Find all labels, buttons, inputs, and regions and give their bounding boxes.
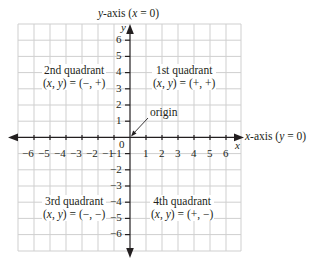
- y-variable-label: y: [121, 22, 126, 33]
- y-axis-up-arrow-icon: [126, 24, 134, 34]
- y-tick-label: 6: [116, 34, 122, 45]
- x-tick-label: 1: [143, 148, 149, 159]
- y-tick-label: −4: [110, 196, 122, 207]
- quadrant-3-label: 3rd quadrant (x, y) = (−, −): [42, 195, 106, 221]
- y-tick-label: −1: [110, 148, 122, 159]
- x-tick-label: −4: [54, 148, 66, 159]
- x-tick-label: −6: [22, 148, 34, 159]
- x-tick-label: −3: [70, 148, 82, 159]
- x-tick-label: 5: [207, 148, 213, 159]
- axes: [8, 24, 244, 258]
- y-axis-down-arrow-icon: [126, 248, 134, 258]
- quadrant-2-label: 2nd quadrant (x, y) = (−, +): [42, 64, 106, 90]
- x-axis-title: x-axis (y = 0): [245, 131, 306, 143]
- x-tick-label: −5: [38, 148, 50, 159]
- y-tick-label: −5: [110, 212, 122, 223]
- origin-label: origin: [150, 107, 177, 119]
- x-tick-label: 3: [175, 148, 181, 159]
- x-tick-label: 2: [159, 148, 165, 159]
- y-tick-label: 2: [116, 99, 122, 110]
- quadrant-4-label: 4th quadrant (x, y) = (+, −): [150, 195, 214, 221]
- x-tick-label: 6: [223, 148, 229, 159]
- x-variable-label: x: [235, 140, 240, 151]
- y-tick-label: 1: [116, 115, 122, 126]
- y-tick-label: −6: [110, 228, 122, 239]
- x-axis-left-arrow-icon: [8, 134, 18, 142]
- y-axis-title: y-axis (x = 0): [98, 8, 159, 20]
- y-tick-label: 5: [116, 50, 122, 61]
- y-tick-label: −3: [110, 180, 122, 191]
- quadrant-1-label: 1st quadrant (x, y) = (+, +): [152, 64, 216, 90]
- x-tick-label: 4: [191, 148, 197, 159]
- x-tick-label: −2: [86, 148, 98, 159]
- y-tick-label: 3: [116, 83, 122, 94]
- y-tick-label: −2: [110, 164, 122, 175]
- y-tick-label: 4: [116, 66, 122, 77]
